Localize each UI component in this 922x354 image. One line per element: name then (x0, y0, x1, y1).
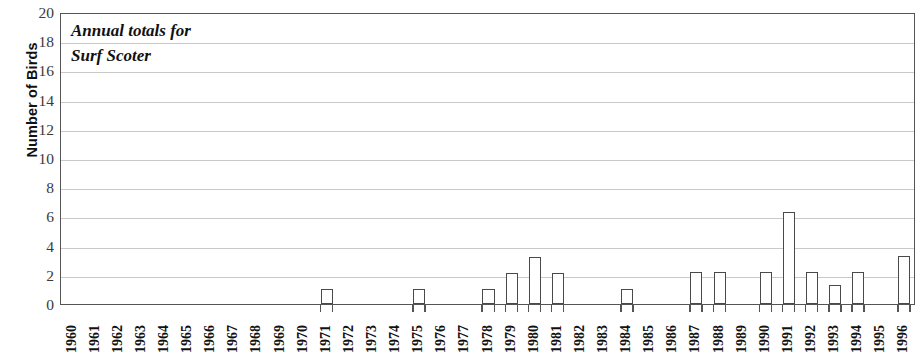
y-axis-tick-labels: 20181614121086420 (22, 0, 54, 354)
x-axis-tick-label: 1992 (804, 309, 818, 354)
x-axis-tick-label: 1973 (365, 309, 379, 354)
x-axis-tick-label: 1986 (665, 309, 679, 354)
bar (482, 289, 494, 304)
plot-area: Annual totals for Surf Scoter (60, 13, 915, 305)
y-axis-tick-label: 0 (22, 297, 54, 313)
x-axis-tick-label: 1970 (296, 309, 310, 354)
bar (552, 273, 564, 304)
bar (506, 273, 518, 304)
x-axis-tick-label: 1995 (873, 309, 887, 354)
x-axis-tick-label: 1980 (527, 309, 541, 354)
x-axis-tick-label: 1975 (411, 309, 425, 354)
x-axis-tick-label: 1990 (758, 309, 772, 354)
y-axis-tick-label: 20 (22, 5, 54, 21)
x-axis-tick-label: 1983 (596, 309, 610, 354)
y-axis-tick-label: 18 (22, 34, 54, 50)
x-axis-tick-label: 1971 (319, 309, 333, 354)
x-axis-tick-label: 1994 (850, 309, 864, 354)
x-axis-tick-label: 1985 (642, 309, 656, 354)
x-axis-tick-label: 1965 (180, 309, 194, 354)
x-axis-tick-label: 1991 (781, 309, 795, 354)
bar (852, 272, 864, 304)
x-axis-tick-label: 1960 (65, 309, 79, 354)
x-axis-tick-label: 1969 (273, 309, 287, 354)
x-axis-tick-label: 1972 (342, 309, 356, 354)
x-axis-tick-label: 1987 (688, 309, 702, 354)
y-axis-tick-label: 2 (22, 268, 54, 284)
y-axis-tick-label: 4 (22, 239, 54, 255)
x-axis-tick-label: 1976 (434, 309, 448, 354)
bar (621, 289, 633, 304)
bar (321, 289, 333, 304)
bar (413, 289, 425, 304)
x-axis-tick-label: 1977 (457, 309, 471, 354)
x-axis-tick-label: 1982 (573, 309, 587, 354)
x-axis-tick-label: 1966 (203, 309, 217, 354)
x-axis-tick-label: 1961 (88, 309, 102, 354)
bar (690, 272, 702, 304)
x-axis-tick-labels: 1960196119621963196419651966196719681969… (60, 310, 915, 354)
bar (714, 272, 726, 304)
bar (760, 272, 772, 304)
bar (783, 212, 795, 304)
x-axis-tick-label: 1996 (896, 309, 910, 354)
y-axis-tick-label: 14 (22, 93, 54, 109)
y-axis-tick-label: 16 (22, 63, 54, 79)
x-axis-tick-label: 1974 (388, 309, 402, 354)
bar-series (61, 14, 914, 304)
y-axis-tick-label: 8 (22, 180, 54, 196)
x-axis-tick-label: 1981 (550, 309, 564, 354)
x-axis-tick-label: 1989 (735, 309, 749, 354)
chart-container: Number of Birds 20181614121086420 Annual… (0, 0, 922, 354)
y-axis-tick-label: 12 (22, 122, 54, 138)
x-axis-tick-label: 1988 (712, 309, 726, 354)
x-axis-tick-label: 1984 (619, 309, 633, 354)
x-axis-tick-label: 1993 (827, 309, 841, 354)
x-axis-tick-label: 1967 (226, 309, 240, 354)
x-axis-tick-label: 1963 (134, 309, 148, 354)
x-axis-tick-label: 1964 (157, 309, 171, 354)
x-axis-tick-label: 1962 (111, 309, 125, 354)
bar (898, 256, 910, 304)
y-axis-tick-label: 10 (22, 151, 54, 167)
x-axis-tick-label: 1968 (249, 309, 263, 354)
x-axis-tick-label: 1978 (481, 309, 495, 354)
bar (806, 272, 818, 304)
x-axis-tick-label: 1979 (504, 309, 518, 354)
y-axis-tick-label: 6 (22, 209, 54, 225)
bar (529, 257, 541, 304)
bar (829, 285, 841, 304)
